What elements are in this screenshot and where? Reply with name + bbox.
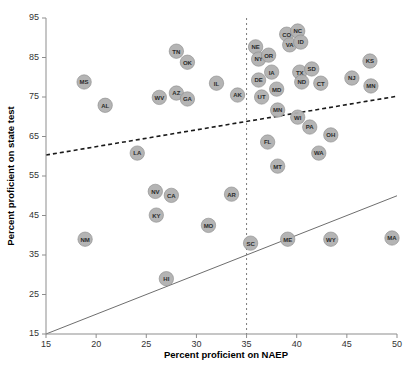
data-point[interactable]: TN [169, 44, 183, 58]
data-point[interactable]: WY [324, 232, 338, 246]
data-point[interactable]: WA [312, 146, 326, 160]
data-point[interactable]: MS [77, 75, 91, 89]
x-tick-label: 20 [91, 339, 101, 349]
data-point[interactable]: KY [149, 208, 163, 222]
y-tick-label: 35 [29, 249, 39, 259]
data-point-label: UT [258, 94, 266, 100]
data-point-label: GA [183, 96, 193, 102]
data-point-label: AR [227, 192, 236, 198]
y-tick-label: 65 [29, 131, 39, 141]
data-point[interactable]: MA [385, 231, 399, 245]
data-point[interactable]: NV [148, 184, 162, 198]
scatter-plot-figure: 1525354555657585951520253035404550 MSALN… [0, 0, 420, 373]
data-point-label: OR [264, 53, 274, 59]
data-point-label: ME [283, 237, 292, 243]
data-point-label: OH [326, 132, 335, 138]
data-point[interactable]: SC [243, 236, 257, 250]
data-point[interactable]: AL [98, 98, 112, 112]
data-point[interactable]: PA [303, 120, 317, 134]
y-tick-label: 45 [29, 210, 39, 220]
data-point[interactable]: WI [291, 110, 305, 124]
data-point-label: MT [273, 164, 282, 170]
data-point-label: LA [133, 150, 142, 156]
x-tick-label: 15 [41, 339, 51, 349]
data-point-label: HI [163, 276, 169, 282]
identity-line [46, 196, 397, 334]
y-tick-label: 15 [29, 328, 39, 338]
data-point-label: ID [298, 39, 305, 45]
data-point-label: WV [154, 95, 164, 101]
data-point-label: IA [269, 70, 276, 76]
y-tick-label: 55 [29, 170, 39, 180]
data-point-label: AZ [172, 90, 180, 96]
data-point[interactable]: MN [364, 79, 378, 93]
data-point-label: WY [326, 237, 336, 243]
data-point[interactable]: ID [294, 35, 308, 49]
data-point[interactable]: MD [269, 82, 283, 96]
data-point-label: ND [297, 79, 306, 85]
data-point[interactable]: IA [264, 65, 278, 79]
data-point-label: MA [387, 235, 397, 241]
data-point-label: MS [80, 79, 89, 85]
y-tick-label: 85 [29, 52, 39, 62]
data-point[interactable]: OK [180, 55, 194, 69]
data-points-layer: MSALNMLANVKYCAHIWVTNOKAZGAMOILAKARSCNENY… [77, 24, 399, 286]
y-tick-label: 75 [29, 91, 39, 101]
data-point[interactable]: OH [324, 128, 338, 142]
x-tick-label: 25 [141, 339, 151, 349]
plot-canvas: 1525354555657585951520253035404550 MSALN… [0, 0, 420, 373]
x-axis-title: Percent proficient on NAEP [164, 349, 289, 360]
axes-layer: 1525354555657585951520253035404550 [29, 12, 402, 349]
x-tick-label: 40 [292, 339, 302, 349]
data-point-label: KS [366, 58, 374, 64]
trend-lines-layer [46, 18, 397, 334]
data-point-label: AK [233, 92, 242, 98]
data-point[interactable]: NJ [345, 71, 359, 85]
data-point-label: NC [293, 28, 302, 34]
data-point[interactable]: ME [280, 232, 294, 246]
data-point[interactable]: OR [261, 48, 275, 62]
data-point-label: WI [294, 115, 302, 121]
data-point[interactable]: MO [201, 218, 215, 232]
data-point-label: CA [167, 193, 176, 199]
data-point-label: NV [151, 189, 159, 195]
data-point-label: NE [251, 44, 259, 50]
data-point-label: CO [282, 32, 291, 38]
data-point-label: MN [366, 83, 375, 89]
data-point[interactable]: LA [130, 146, 144, 160]
y-tick-label: 25 [29, 289, 39, 299]
data-point-label: OK [183, 60, 193, 66]
data-point[interactable]: NM [78, 232, 92, 246]
data-point-label: PA [306, 124, 315, 130]
data-point[interactable]: CA [164, 188, 178, 202]
data-point[interactable]: FL [260, 135, 274, 149]
x-tick-label: 50 [392, 339, 402, 349]
data-point[interactable]: GA [180, 92, 194, 106]
data-point-label: AL [101, 103, 109, 109]
data-point-label: IL [214, 81, 220, 87]
data-point[interactable]: HI [159, 272, 173, 286]
data-point[interactable]: KS [363, 54, 377, 68]
data-point-label: KY [152, 213, 160, 219]
x-tick-label: 35 [242, 339, 252, 349]
data-point[interactable]: UT [254, 90, 268, 104]
data-point[interactable]: ND [295, 75, 309, 89]
data-point[interactable]: AR [224, 187, 238, 201]
data-point[interactable]: DE [251, 73, 265, 87]
y-axis-title: Percent proficient on state test [5, 105, 16, 245]
data-point[interactable]: AK [230, 88, 244, 102]
data-point[interactable]: IL [209, 76, 223, 90]
data-point[interactable]: MN [270, 103, 284, 117]
data-point[interactable]: MT [270, 159, 284, 173]
data-point[interactable]: SD [305, 62, 319, 76]
y-tick-label: 95 [29, 12, 39, 22]
data-point-label: TN [172, 49, 180, 55]
data-point-label: WA [314, 150, 324, 156]
data-point-label: MN [273, 107, 282, 113]
data-point-label: MD [272, 87, 282, 93]
data-point-label: VA [286, 42, 295, 48]
data-point[interactable]: WV [152, 90, 166, 104]
data-point-label: CT [317, 81, 325, 87]
data-point-label: DE [254, 77, 262, 83]
data-point[interactable]: CT [314, 76, 328, 90]
